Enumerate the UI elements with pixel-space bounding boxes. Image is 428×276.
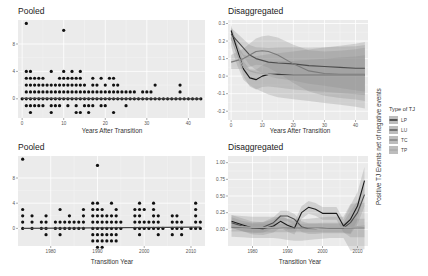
data-point [110, 214, 113, 217]
data-point [138, 202, 141, 205]
data-point [96, 239, 99, 242]
data-point [157, 214, 160, 217]
data-point [110, 220, 113, 223]
data-point [62, 84, 65, 87]
y-axis-label-shared: Positive TJ Events net of negative event… [375, 88, 383, 205]
y-tick-label: 4 [12, 201, 15, 206]
data-point [96, 233, 99, 236]
x-tick-label: 2000 [139, 249, 150, 254]
data-point [138, 220, 141, 223]
data-point [29, 70, 32, 73]
data-point [41, 104, 44, 107]
data-point [115, 233, 118, 236]
x-tick-label: 20 [103, 121, 109, 126]
panel-title-top-left: Pooled [18, 6, 45, 16]
data-point [58, 104, 61, 107]
panel-bottom-left-scatter: 1980199020002010048 [12, 156, 205, 254]
y-tick-label: 0.00 [216, 227, 225, 232]
data-point [33, 84, 36, 87]
data-point [175, 214, 178, 217]
data-point [87, 104, 90, 107]
panel-bottom-right-lines: 19801990200020100.000.250.500.751.00 [216, 156, 368, 254]
data-point [40, 220, 43, 223]
y-tick-label: -0.2 [217, 109, 225, 114]
data-point [105, 220, 108, 223]
data-point [124, 90, 127, 93]
data-point [124, 104, 127, 107]
data-point [112, 77, 115, 80]
data-point [77, 220, 80, 223]
data-point [58, 220, 61, 223]
y-tick-label: 8 [12, 42, 15, 47]
data-point [96, 220, 99, 223]
data-point [30, 214, 33, 217]
data-point [66, 90, 69, 93]
data-point [171, 233, 174, 236]
data-point [91, 239, 94, 242]
data-point [25, 84, 28, 87]
data-point [45, 84, 48, 87]
legend: Type of TJ LPLUTCTP [389, 106, 415, 154]
data-point [91, 202, 94, 205]
data-point [105, 214, 108, 217]
data-point [75, 77, 78, 80]
x-tick-label: 2010 [186, 249, 197, 254]
x-axis-label-bottom-left: Transition Year [91, 258, 134, 265]
data-point [25, 104, 28, 107]
data-point [70, 70, 73, 73]
data-point [68, 214, 71, 217]
data-point [108, 90, 111, 93]
data-point [101, 208, 104, 211]
data-point [79, 77, 82, 80]
data-point [115, 239, 118, 242]
data-point [112, 90, 115, 93]
y-tick-label: 8 [12, 176, 15, 181]
data-point [110, 239, 113, 242]
data-point [101, 214, 104, 217]
data-point [21, 214, 24, 217]
data-point [115, 220, 118, 223]
data-point [66, 77, 69, 80]
data-point [194, 202, 197, 205]
x-tick-label: 1990 [92, 249, 103, 254]
data-point [25, 77, 28, 80]
data-point [143, 220, 146, 223]
data-point [29, 77, 32, 80]
data-point [180, 233, 183, 236]
data-point [95, 84, 98, 87]
data-point [54, 90, 57, 93]
data-point [138, 214, 141, 217]
figure-canvas: Pooled Disaggregated Pooled Disaggregate… [0, 0, 428, 276]
data-point [58, 84, 61, 87]
data-point [175, 220, 178, 223]
y-tick-label: 0.75 [216, 177, 225, 182]
data-point [50, 104, 53, 107]
data-point [50, 70, 53, 73]
data-point [21, 220, 24, 223]
data-point [152, 214, 155, 217]
data-point [133, 90, 136, 93]
data-point [29, 84, 32, 87]
data-point [37, 104, 40, 107]
data-point [82, 220, 85, 223]
data-point [91, 84, 94, 87]
y-tick-label: 0.0 [219, 74, 226, 79]
data-point [82, 208, 85, 211]
data-point [171, 220, 174, 223]
data-point [91, 90, 94, 93]
x-tick-label: 1980 [46, 249, 57, 254]
data-point [25, 70, 28, 73]
data-point [91, 220, 94, 223]
data-point [73, 220, 76, 223]
x-tick-label: 0 [230, 123, 233, 128]
data-point [101, 239, 104, 242]
y-tick-label: 0.2 [219, 39, 226, 44]
legend-label-lp: LP [401, 118, 407, 123]
data-point [82, 214, 85, 217]
data-point [33, 90, 36, 93]
y-tick-label: 4 [12, 69, 15, 74]
data-point [157, 233, 160, 236]
x-tick-label: 1990 [282, 249, 293, 254]
x-axis-label-bottom-right: Transition Year [279, 258, 322, 265]
data-point [96, 214, 99, 217]
